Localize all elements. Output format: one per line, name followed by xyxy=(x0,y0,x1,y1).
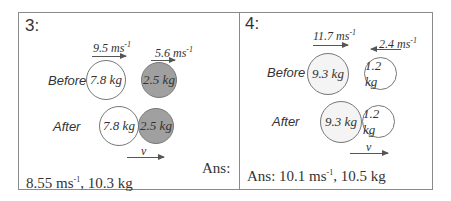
velocity-1-arrow-icon xyxy=(313,45,348,46)
mass-1-before: 9.3 kg xyxy=(307,53,349,95)
problem-number: 3: xyxy=(25,16,39,36)
after-label: After xyxy=(272,114,299,129)
answer-text: 8.55 ms-1, 10.3 kg xyxy=(26,175,133,192)
final-velocity-arrow-icon xyxy=(350,153,388,154)
before-label: Before xyxy=(48,73,86,88)
column-divider xyxy=(239,12,240,190)
ans-label: Ans: xyxy=(202,160,230,177)
mass-1-after: 7.8 kg xyxy=(99,106,139,146)
velocity-2-arrow-icon xyxy=(151,60,175,61)
mass-2-after: 2.5 kg xyxy=(138,108,174,144)
mass-2-before: 1.2 kg xyxy=(364,57,397,90)
answer-text: Ans: 10.1 ms-1, 10.5 kg xyxy=(247,168,386,185)
mass-1-before: 7.8 kg xyxy=(86,60,126,100)
after-label: After xyxy=(53,119,80,134)
before-label: Before xyxy=(267,65,305,80)
velocity-1-label: 11.7 ms-1 xyxy=(313,28,356,44)
mass-2-before: 2.5 kg xyxy=(141,62,177,98)
velocity-2-arrow-icon xyxy=(371,49,401,50)
mass-2-after: 1.2 kg xyxy=(362,105,395,138)
velocity-1-arrow-icon xyxy=(92,56,126,57)
final-velocity-arrow-icon xyxy=(127,157,164,158)
problem-number: 4: xyxy=(245,14,259,34)
mass-1-after: 9.3 kg xyxy=(320,101,362,143)
